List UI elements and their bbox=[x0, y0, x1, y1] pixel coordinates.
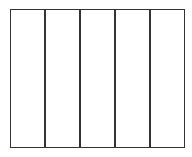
vertical-divider-1 bbox=[44, 9, 46, 148]
vertical-divider-4 bbox=[149, 9, 151, 148]
vertical-divider-2 bbox=[79, 9, 81, 148]
outer-rectangle bbox=[10, 9, 185, 148]
vertical-divider-3 bbox=[114, 9, 116, 148]
